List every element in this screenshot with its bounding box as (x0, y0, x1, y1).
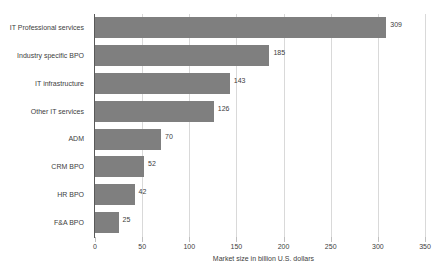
category-label: HR BPO (0, 191, 89, 199)
x-axis-tick-mark (142, 237, 143, 242)
bar-row: 309 (95, 14, 425, 42)
bar-row: 126 (95, 98, 425, 126)
category-label: Industry specific BPO (0, 52, 89, 60)
x-axis-tick-mark (284, 237, 285, 242)
x-axis-tick-mark (189, 237, 190, 242)
bar (95, 101, 214, 122)
plot-area: 30918514312670524225 (95, 14, 425, 237)
bar-row: 25 (95, 209, 425, 237)
x-axis-tick-label: 0 (93, 243, 97, 251)
category-label: F&A BPO (0, 219, 89, 227)
x-axis-tick-label: 150 (231, 243, 243, 251)
bar-row: 70 (95, 126, 425, 154)
x-axis-tick-mark (331, 237, 332, 242)
bar (95, 17, 386, 38)
bar-row: 52 (95, 153, 425, 181)
x-axis-tick-mark (378, 237, 379, 242)
x-axis-tick-label: 50 (138, 243, 146, 251)
x-axis-title: Market size in billion U.S. dollars (213, 254, 314, 263)
bar-value-label: 185 (273, 49, 285, 57)
bar-row: 42 (95, 181, 425, 209)
x-axis-tick-mark (425, 237, 426, 242)
bar-chart: 30918514312670524225 IT Professional ser… (0, 0, 443, 275)
bar-value-label: 25 (123, 216, 131, 224)
bar-value-label: 126 (218, 105, 230, 113)
category-label: CRM BPO (0, 163, 89, 171)
x-axis-tick-label: 100 (183, 243, 195, 251)
gridline (425, 14, 426, 237)
x-axis-tick-label: 350 (419, 243, 431, 251)
category-label: IT Professional services (0, 24, 89, 32)
x-axis-tick-mark (236, 237, 237, 242)
bar (95, 184, 135, 205)
bar (95, 156, 144, 177)
bar-value-label: 52 (148, 160, 156, 168)
y-axis-category-labels: IT Professional servicesIndustry specifi… (0, 14, 89, 237)
bar-row: 185 (95, 42, 425, 70)
bar-series: 30918514312670524225 (95, 14, 425, 237)
category-label: Other IT services (0, 108, 89, 116)
x-axis-tick-label: 200 (278, 243, 290, 251)
bar (95, 129, 161, 150)
bar-value-label: 70 (165, 133, 173, 141)
x-axis-tick-label: 250 (325, 243, 337, 251)
bar (95, 212, 119, 233)
bar-value-label: 143 (234, 77, 246, 85)
bar-value-label: 42 (139, 188, 147, 196)
category-label: IT infrastructure (0, 80, 89, 88)
x-axis-tick-mark (95, 237, 96, 242)
bar (95, 73, 230, 94)
bar-row: 143 (95, 70, 425, 98)
category-label: ADM (0, 135, 89, 143)
y-axis-line (94, 14, 95, 238)
bar-value-label: 309 (390, 21, 402, 29)
x-axis-tick-label: 300 (372, 243, 384, 251)
bar (95, 45, 269, 66)
